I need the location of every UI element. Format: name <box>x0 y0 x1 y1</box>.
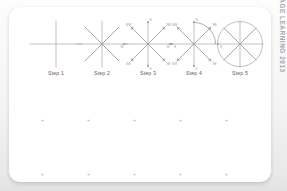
arrow-northeast <box>148 27 165 44</box>
direction-label-nw: NW <box>172 23 177 27</box>
copyright-notice: © CENGAGE LEARNING 2013 <box>276 0 286 62</box>
tick-mark <box>178 118 183 123</box>
tick-mark <box>40 118 45 123</box>
arrow-northwest <box>177 27 194 44</box>
tick-mark <box>86 118 91 123</box>
direction-label-w: W <box>120 45 123 49</box>
arrow-southwest <box>131 44 148 61</box>
arrow-northeast <box>194 27 211 44</box>
direction-label-sw: SW <box>126 62 131 66</box>
tick-mark <box>178 172 183 177</box>
tick-mark <box>132 118 137 123</box>
step-5-label: Step 5 <box>212 70 268 76</box>
step-5-drawing <box>212 18 268 70</box>
tick-row-upper <box>9 118 271 126</box>
diagram-step-5: Step 5 <box>212 18 268 82</box>
tick-row-lower <box>9 172 271 180</box>
arrow-southeast <box>148 44 165 61</box>
tick-mark <box>224 118 229 123</box>
direction-label-w: W <box>166 45 169 49</box>
tick-mark <box>86 172 91 177</box>
direction-label-nw: NW <box>126 23 131 27</box>
arrow-southwest <box>177 44 194 61</box>
tick-mark <box>132 172 137 177</box>
tick-mark <box>40 172 45 177</box>
arrow-northwest <box>131 27 148 44</box>
tick-mark <box>224 172 229 177</box>
direction-label-n: N <box>150 18 152 22</box>
direction-label-sw: SW <box>172 62 177 66</box>
arrow-southeast <box>194 44 211 61</box>
figure-canvas: Step 1 Step 2 <box>9 7 271 182</box>
direction-label-n: N <box>196 18 198 22</box>
figure-page: Step 1 Step 2 <box>0 0 287 191</box>
